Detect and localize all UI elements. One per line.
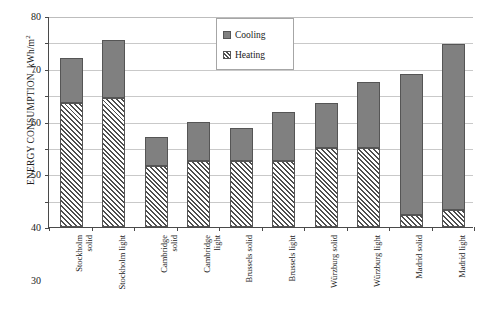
x-axis-tick [304,227,305,231]
x-axis-label: Brussels light [287,235,297,314]
bar-group [442,44,465,227]
x-axis-label: Cambridge [159,235,169,314]
bar-segment-heating [400,215,423,227]
bar-group [357,82,380,227]
y-axis-tick-label: 40 [31,223,41,233]
bar-segment-cooling [102,40,125,98]
bar-segment-heating [272,161,295,227]
x-axis-tick [177,227,178,231]
bar-segment-cooling [357,82,380,148]
y-axis-tick: 70 [45,43,49,44]
bar-segment-cooling [60,58,83,103]
bar-segment-cooling [315,103,338,148]
bar-segment-heating [60,103,83,227]
x-axis-label: solid [84,235,94,314]
bar-group [272,112,295,227]
bar-segment-cooling [272,112,295,161]
bar-group [230,128,253,227]
y-axis-tick: 30 [45,149,49,150]
x-axis-label: light [212,235,222,314]
bar-segment-cooling [230,128,253,161]
legend-label-heating: Heating [235,50,265,60]
x-axis-label: Madrid solid [414,235,424,314]
x-axis-label: Würzburg solid [329,235,339,314]
bar-segment-cooling [187,122,210,162]
x-axis-label: Madrid light [457,235,467,314]
x-axis-tick [389,227,390,231]
x-axis-label: solid [169,235,179,314]
x-axis-tick [262,227,263,231]
bar-segment-heating [187,161,210,227]
x-axis-tick [474,227,475,231]
bar-group [400,74,423,227]
bar-segment-heating [442,210,465,227]
bar-group [145,137,168,227]
y-axis-tick: 80 [45,17,49,18]
bar-segment-heating [315,148,338,227]
x-axis-tick [92,227,93,231]
x-axis-tick [219,227,220,231]
legend-swatch-heating-icon [223,51,231,59]
y-axis-tick: 20 [45,175,49,176]
x-axis-tick [134,227,135,231]
bar-segment-cooling [145,137,168,166]
energy-consumption-bar-chart: ENERGY CONSUMPTION, kWh/m2 0102030405060… [0,0,479,314]
legend-item-cooling: Cooling [223,25,288,45]
y-axis-title-text: ENERGY CONSUMPTION, kWh/m [26,39,36,185]
bar-group [102,40,125,227]
chart-legend: Cooling Heating [216,18,294,70]
y-axis-tick-label: 50 [31,170,41,180]
y-axis-tick-label: 60 [31,118,41,128]
x-axis-label: Stockholm [74,235,84,314]
bar-group [187,122,210,228]
y-axis-tick: 10 [45,202,49,203]
y-axis-tick-label: 80 [31,12,41,22]
legend-item-heating: Heating [223,45,288,65]
legend-label-cooling: Cooling [235,30,266,40]
y-axis-tick-label: 70 [31,65,41,75]
x-axis-label: Cambridge [202,235,212,314]
x-axis-label: Brussels solid [244,235,254,314]
x-axis-tick [347,227,348,231]
legend-swatch-cooling-icon [223,31,231,39]
x-axis-label: Stockholm light [117,235,127,314]
x-axis-labels: StockholmsolidStockholm lightCambridgeso… [48,233,473,313]
bar-group [60,58,83,227]
bar-segment-heating [357,148,380,227]
bar-segment-cooling [400,74,423,215]
bar-segment-heating [102,98,125,227]
y-axis-tick: 50 [45,96,49,97]
y-axis-tick: 60 [45,70,49,71]
x-axis-tick [432,227,433,231]
x-axis-tick [49,227,50,231]
y-axis-tick: 40 [45,123,49,124]
bar-segment-heating [145,166,168,227]
y-axis-title-superscript: 2 [24,35,32,39]
x-axis-label: Würzburg light [372,235,382,314]
bar-group [315,103,338,227]
y-axis-tick-label: 30 [31,276,41,286]
bar-segment-heating [230,161,253,227]
bar-segment-cooling [442,44,465,210]
